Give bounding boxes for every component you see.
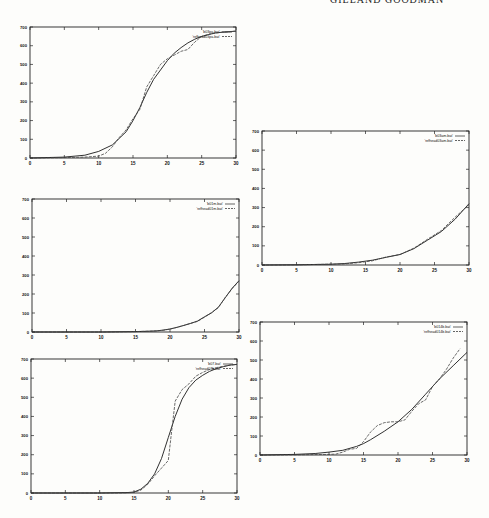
- y-tick-label: 100: [250, 434, 258, 439]
- y-tick-label: 700: [250, 320, 258, 325]
- y-tick-label: 500: [250, 358, 258, 363]
- x-tick-label: 25: [430, 458, 436, 463]
- x-tick-label: 0: [259, 458, 262, 463]
- x-tick-label: 10: [326, 458, 332, 463]
- y-tick-label: 200: [250, 415, 258, 420]
- x-tick-label: 5: [293, 458, 296, 463]
- x-tick-label: 20: [395, 458, 401, 463]
- y-tick-label: 600: [250, 339, 258, 344]
- series-line: [260, 352, 467, 455]
- x-tick-label: 15: [361, 458, 367, 463]
- series-line: [260, 349, 460, 455]
- y-tick-label: 400: [250, 377, 258, 382]
- legend-label: 'b014b.bat': [434, 325, 452, 329]
- legend-label: 'refhead014b.bat': [423, 330, 451, 334]
- chart-right-bottom: 0510152025300100200300400500600700'b014b…: [0, 0, 489, 518]
- plot-frame: [260, 322, 467, 455]
- y-tick-label: 0: [255, 453, 258, 458]
- x-tick-label: 30: [464, 458, 470, 463]
- y-tick-label: 300: [250, 396, 258, 401]
